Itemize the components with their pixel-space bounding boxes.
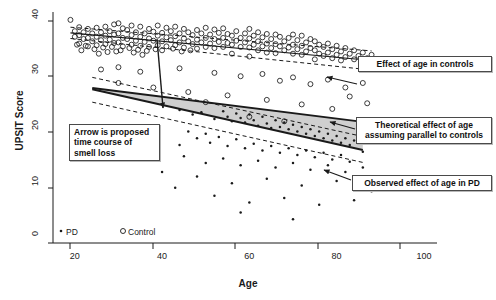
annotation-theoretical-effect: Theoretical effect of age assuming paral… xyxy=(356,117,492,144)
y-tick-label: 40 xyxy=(30,9,40,31)
annotation-arrow-time-course: Arrow is proposed time course of smell l… xyxy=(69,124,160,161)
figure-panel: Effect of age in controls Theoretical ef… xyxy=(0,0,496,300)
annotation-effect-of-age-in-controls: Effect of age in controls xyxy=(358,56,492,72)
x-tick-label: 60 xyxy=(234,251,264,261)
legend-label-pd: PD xyxy=(66,227,78,237)
x-axis-ticks xyxy=(70,243,400,249)
legend-label-control: Control xyxy=(128,227,155,237)
y-tick-label: 20 xyxy=(30,120,40,142)
x-axis-title: Age xyxy=(0,278,496,289)
annotation-observed-effect-in-pd: Observed effect of age in PD xyxy=(352,175,492,191)
x-tick-label: 80 xyxy=(322,251,352,261)
y-axis-title: UPSIT Score xyxy=(14,71,25,171)
y-tick-label: 10 xyxy=(30,176,40,198)
y-axis-ticks xyxy=(48,21,53,243)
x-tick-label: 100 xyxy=(409,251,439,261)
x-tick-label: 20 xyxy=(60,251,90,261)
x-tick-label: 40 xyxy=(147,251,177,261)
y-tick-label: 0 xyxy=(30,231,40,253)
y-tick-label: 30 xyxy=(30,64,40,86)
